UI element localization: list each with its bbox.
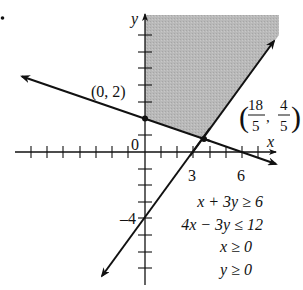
svg-text:5: 5 <box>252 118 260 134</box>
vertex-18-5-4-5 <box>201 136 207 142</box>
problem-bullet <box>1 16 5 20</box>
svg-text:,: , <box>266 109 270 125</box>
x-axis-label: x <box>266 133 274 150</box>
constraint-1: x + 3y ≥ 6 <box>196 193 263 211</box>
y-tick-label-minus-4: –4 <box>119 210 136 227</box>
point-label-18-5-4-5: ( 18 5 , 4 5 ) <box>239 97 301 134</box>
y-axis-label: y <box>129 10 139 28</box>
constraint-list: x + 3y ≥ 6 4x − 3y ≤ 12 x ≥ 0 y ≥ 0 <box>181 193 263 279</box>
line-x-plus-3y-eq-6-right <box>200 138 276 165</box>
svg-text:4: 4 <box>280 97 288 113</box>
origin-label: 0 <box>131 136 139 153</box>
feasible-region-graph: y x 0 3 6 –4 (0, 2) ( 18 5 , 4 5 ) x + 3… <box>0 0 303 290</box>
x-tick-label-6: 6 <box>237 167 245 184</box>
constraint-4: y ≥ 0 <box>218 261 252 279</box>
line-4x-minus-3y-eq-12-lower <box>102 128 210 276</box>
constraint-3: x ≥ 0 <box>219 238 252 255</box>
constraint-2: 4x − 3y ≤ 12 <box>181 216 263 234</box>
point-label-0-2: (0, 2) <box>91 83 126 101</box>
x-tick-label-3: 3 <box>188 167 196 184</box>
svg-text:5: 5 <box>280 118 288 134</box>
svg-text:): ) <box>291 100 301 134</box>
vertex-0-2 <box>142 116 148 122</box>
svg-text:18: 18 <box>248 97 263 113</box>
